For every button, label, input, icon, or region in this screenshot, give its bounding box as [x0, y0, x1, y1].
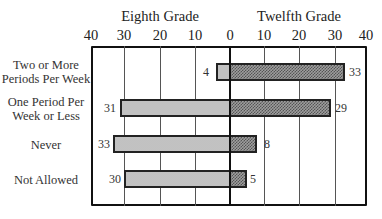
category-label-line: Not Allowed	[0, 173, 92, 187]
bar-twelfth-grade	[230, 63, 345, 81]
value-label-twelfth: 33	[349, 63, 361, 81]
category-label-line: Never	[0, 138, 92, 152]
category-label-not-allowed: Not Allowed	[0, 173, 92, 187]
tick-left-10: 10	[188, 27, 203, 44]
category-label-line: Two or More	[0, 58, 92, 72]
value-label-eighth: 31	[104, 99, 116, 117]
tick-left-30: 30	[117, 27, 132, 44]
zero-axis-line	[229, 46, 231, 206]
value-label-twelfth: 5	[250, 170, 256, 188]
bar-eighth-grade	[120, 99, 230, 117]
tick-right-20: 20	[292, 27, 307, 44]
category-label-two-or-more: Two or More Periods Per Week	[0, 58, 92, 86]
value-label-eighth: 4	[203, 63, 209, 81]
tick-zero: 0	[226, 27, 233, 44]
tick-left-20: 20	[153, 27, 168, 44]
tick-right-30: 30	[328, 27, 343, 44]
twelfth-grade-title: Twelfth Grade	[257, 8, 341, 25]
bar-twelfth-grade	[230, 135, 257, 153]
bar-twelfth-grade	[230, 99, 331, 117]
category-label-never: Never	[0, 138, 92, 152]
value-label-twelfth: 8	[264, 135, 270, 153]
bar-eighth-grade	[216, 63, 230, 81]
category-label-one-period: One Period Per Week or Less	[0, 95, 92, 123]
bar-eighth-grade	[124, 170, 230, 188]
value-label-eighth: 30	[109, 170, 121, 188]
value-label-twelfth: 29	[335, 99, 347, 117]
tick-left-40: 40	[84, 27, 99, 44]
bar-twelfth-grade	[230, 170, 247, 188]
value-label-eighth: 33	[98, 135, 110, 153]
category-label-line: One Period Per	[0, 95, 92, 109]
category-label-line: Periods Per Week	[0, 72, 92, 86]
eighth-grade-title: Eighth Grade	[121, 8, 199, 25]
category-label-line: Week or Less	[0, 109, 92, 123]
tick-right-10: 10	[257, 27, 272, 44]
tick-right-40: 40	[359, 27, 374, 44]
bar-eighth-grade	[113, 135, 230, 153]
